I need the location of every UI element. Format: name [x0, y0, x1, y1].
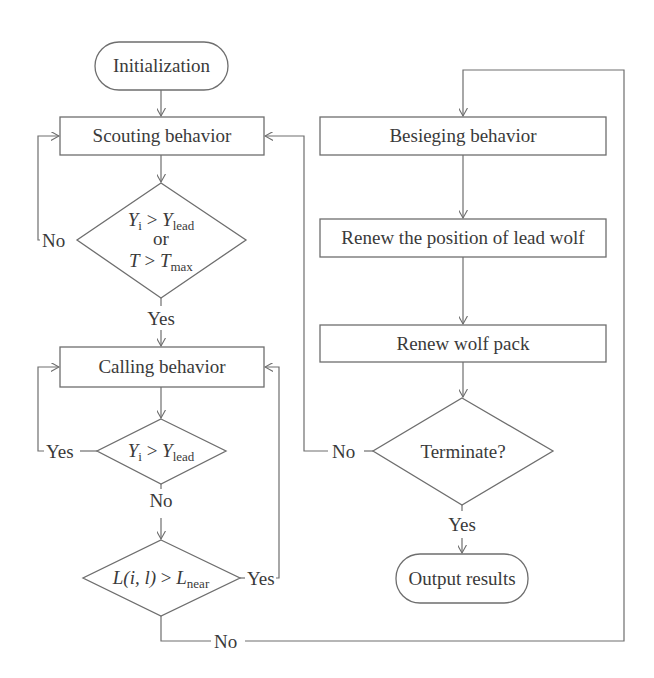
initialization-label: Initialization: [113, 55, 211, 76]
terminate-label: Terminate?: [420, 441, 505, 462]
edge-decision3-yes-loop: [265, 367, 279, 578]
edge-decision3-no-left: [161, 616, 211, 641]
label-decision3-no: No: [214, 631, 237, 652]
flowchart-svg: Initialization Scouting behavior Yi > Yl…: [0, 0, 654, 678]
node-initialization: Initialization: [95, 42, 228, 90]
node-terminate: Terminate?: [373, 398, 553, 505]
node-renew-pack: Renew wolf pack: [320, 325, 606, 362]
calling-label: Calling behavior: [98, 356, 226, 377]
edge-decision2-yes-loop: [38, 367, 59, 451]
renew-pack-label: Renew wolf pack: [397, 333, 530, 354]
flowchart-canvas: Initialization Scouting behavior Yi > Yl…: [0, 0, 654, 678]
label-decision1-no: No: [42, 230, 65, 251]
node-renew-lead: Renew the position of lead wolf: [320, 219, 606, 257]
label-terminate-yes: Yes: [448, 514, 476, 535]
node-output: Output results: [396, 554, 528, 603]
output-label: Output results: [408, 568, 515, 589]
node-decision3: L(i, l) > Lnear: [83, 540, 240, 616]
besieging-label: Besieging behavior: [389, 125, 537, 146]
edge-decision1-no-loop: [38, 136, 59, 240]
node-besieging: Besieging behavior: [320, 117, 606, 155]
label-decision3-yes: Yes: [247, 568, 275, 589]
label-decision2-yes: Yes: [46, 441, 74, 462]
decision1-line2: or: [153, 228, 170, 249]
edge-terminate-no-scouting: [265, 136, 328, 451]
node-scouting: Scouting behavior: [60, 117, 264, 155]
node-decision2: Yi > Ylead: [97, 419, 226, 484]
node-decision1: Yi > Ylead or T > Tmax: [77, 183, 246, 298]
label-decision2-no: No: [149, 490, 172, 511]
label-decision1-yes: Yes: [147, 308, 175, 329]
node-calling: Calling behavior: [60, 347, 264, 387]
scouting-label: Scouting behavior: [93, 125, 232, 146]
renew-lead-label: Renew the position of lead wolf: [341, 227, 585, 248]
label-terminate-no: No: [332, 441, 355, 462]
